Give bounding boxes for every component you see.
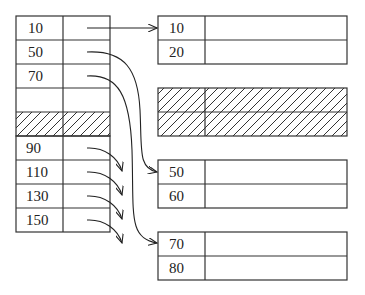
data-block-hatched — [158, 88, 347, 136]
root-key-10: 10 — [28, 20, 43, 36]
block-key-60: 60 — [169, 188, 184, 204]
block-key-70: 70 — [169, 236, 184, 252]
data-block-70-80: 70 80 — [158, 232, 347, 280]
root-key-50: 50 — [28, 44, 43, 60]
overflow-key-150: 150 — [26, 212, 49, 228]
root-key-70: 70 — [28, 68, 43, 84]
block-key-80: 80 — [169, 260, 184, 276]
overflow-key-130: 130 — [26, 188, 49, 204]
overflow-key-90: 90 — [26, 140, 41, 156]
overflow-pointers — [87, 148, 122, 243]
block-key-50: 50 — [169, 164, 184, 180]
block-key-10: 10 — [169, 20, 184, 36]
index-diagram: 10 50 70 90 110 130 150 10 20 50 60 — [0, 0, 365, 295]
block-key-20: 20 — [169, 44, 184, 60]
data-block-10-20: 10 20 — [158, 16, 347, 64]
overflow-index-table: 90 110 130 150 — [16, 136, 110, 232]
overflow-key-110: 110 — [26, 164, 48, 180]
data-block-50-60: 50 60 — [158, 160, 347, 208]
